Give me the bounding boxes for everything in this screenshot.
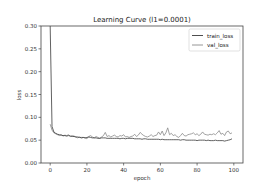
y-tick-label: 0.00 [25, 160, 38, 166]
x-tick-label: 60 [157, 167, 164, 173]
y-tick-label: 0.25 [25, 46, 38, 52]
y-axis-label: loss [16, 90, 22, 101]
y-tick-label: 0.20 [25, 69, 38, 75]
y-tick-label: 0.30 [25, 23, 38, 29]
legend: train_lossval_loss [189, 29, 240, 51]
x-tick-label: 0 [48, 167, 52, 173]
legend-label: train_loss [207, 33, 233, 40]
y-tick-label: 0.10 [25, 114, 38, 120]
x-tick-label: 80 [194, 167, 201, 173]
y-tick-label: 0.05 [25, 137, 38, 143]
x-tick-label: 100 [229, 167, 240, 173]
y-tick-label: 0.15 [25, 92, 38, 98]
x-axis-label: epoch [134, 175, 151, 182]
x-tick-label: 40 [120, 167, 127, 173]
chart-title: Learning Curve (l1=0.0001) [93, 16, 191, 24]
learning-curve-chart: Learning Curve (l1=0.0001) 0.000.050.100… [0, 0, 258, 195]
x-tick-label: 20 [83, 167, 90, 173]
legend-label: val_loss [207, 42, 229, 49]
